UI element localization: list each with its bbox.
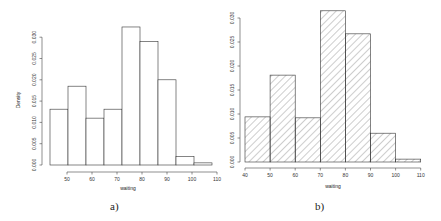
x-tick-label: 110 (213, 176, 221, 182)
y-tick-label: 0.015 (229, 84, 235, 97)
histogram-bar (371, 133, 396, 162)
x-tick-label: 90 (164, 176, 170, 182)
x-tick-label: 100 (188, 176, 197, 182)
y-tick-label: 0.005 (31, 137, 37, 150)
histogram-bar (86, 118, 104, 165)
x-axis-label: waiting (120, 185, 136, 191)
y-tick-label: 0.025 (229, 36, 235, 49)
y-tick-label: 0.020 (229, 60, 235, 73)
panel-label: b) (315, 200, 325, 213)
histogram-figure: 0.0000.0050.0100.0150.0200.0250.03050607… (0, 0, 441, 221)
x-tick-label: 60 (292, 172, 298, 178)
x-tick-label: 60 (89, 176, 95, 182)
y-tick-label: 0.015 (31, 95, 37, 108)
y-tick-label: 0.025 (31, 52, 37, 65)
x-tick-label: 70 (114, 176, 120, 182)
histogram-panel-b: 0.0000.0050.0100.0150.0200.0250.03040506… (229, 11, 425, 213)
panel-label: a) (110, 200, 119, 213)
histogram-bar (158, 80, 176, 165)
y-tick-label: 0.000 (229, 156, 235, 169)
x-tick-label: 40 (242, 172, 248, 178)
x-tick-label: 50 (64, 176, 70, 182)
histogram-bar (320, 11, 345, 162)
y-tick-label: 0.010 (229, 108, 235, 121)
x-tick-label: 50 (267, 172, 273, 178)
y-tick-label: 0.030 (31, 31, 37, 44)
x-tick-label: 70 (318, 172, 324, 178)
y-tick-label: 0.020 (31, 73, 37, 86)
histogram-bar (295, 118, 320, 162)
x-tick-label: 80 (343, 172, 349, 178)
histogram-bar (396, 159, 421, 162)
x-tick-label: 100 (391, 172, 400, 178)
histogram-bar (104, 109, 122, 165)
histogram-bar (50, 109, 68, 165)
histogram-bar (176, 156, 194, 165)
histogram-bar (345, 34, 370, 162)
x-tick-label: 90 (368, 172, 374, 178)
y-tick-label: 0.005 (229, 132, 235, 145)
histogram-bar (122, 27, 140, 165)
histogram-bar (140, 41, 158, 165)
histogram-bar (245, 117, 270, 162)
histogram-panel-a: 0.0000.0050.0100.0150.0200.0250.03050607… (15, 27, 221, 213)
y-tick-label: 0.000 (31, 159, 37, 172)
y-tick-label: 0.010 (31, 116, 37, 129)
histogram-bar (68, 86, 86, 165)
x-axis-label: waiting (325, 183, 341, 189)
x-tick-label: 110 (417, 172, 425, 178)
histogram-bar (194, 163, 212, 165)
histogram-bar (270, 75, 295, 162)
y-tick-label: 0.030 (229, 12, 235, 25)
y-axis-label: Density (15, 91, 21, 108)
x-tick-label: 80 (139, 176, 145, 182)
